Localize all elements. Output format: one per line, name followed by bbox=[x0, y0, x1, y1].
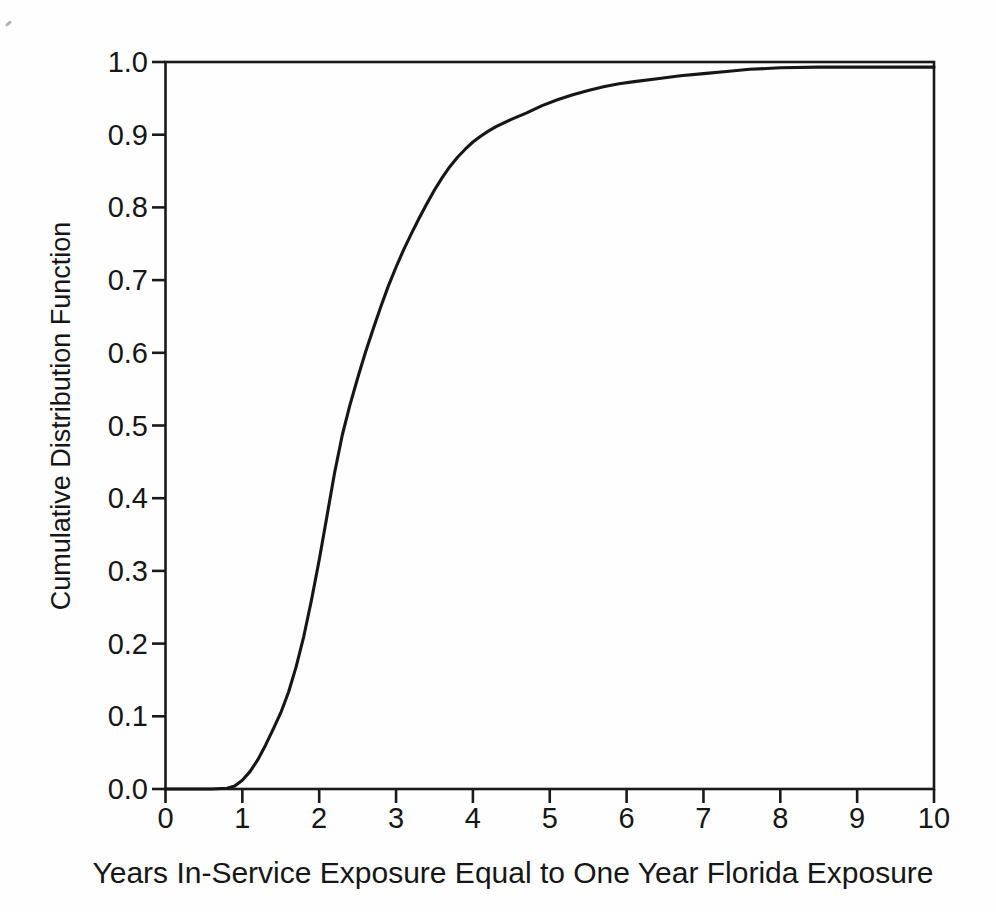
x-axis-title: Years In-Service Exposure Equal to One Y… bbox=[30, 856, 996, 890]
x-tick-label: 8 bbox=[748, 801, 812, 835]
cdf-figure: 0.0 0.1 0.2 0.3 0.4 0.5 0.6 0.7 0.8 0.9 … bbox=[0, 0, 996, 912]
y-tick-label: 0.1 bbox=[86, 700, 148, 732]
x-tick-label: 1 bbox=[210, 801, 274, 835]
x-tick-label: 10 bbox=[902, 801, 966, 835]
y-tick-label: 0.7 bbox=[86, 264, 148, 296]
y-tick-label: 0.9 bbox=[86, 119, 148, 151]
x-tick-label: 7 bbox=[671, 801, 735, 835]
y-tick-label: 0.3 bbox=[86, 555, 148, 587]
cdf-curve bbox=[166, 67, 935, 789]
y-tick-label: 0.4 bbox=[86, 482, 148, 514]
y-tick-label: 0.8 bbox=[86, 191, 148, 223]
x-tick-label: 2 bbox=[287, 801, 351, 835]
plot-area bbox=[0, 0, 996, 912]
plot-frame bbox=[166, 62, 935, 789]
x-tick-label: 9 bbox=[825, 801, 889, 835]
x-tick-label: 3 bbox=[364, 801, 428, 835]
x-tick-label: 4 bbox=[441, 801, 505, 835]
y-tick-label: 0.6 bbox=[86, 337, 148, 369]
y-tick-label: 0.5 bbox=[86, 410, 148, 442]
y-tick-label: 0.2 bbox=[86, 628, 148, 660]
x-tick-label: 0 bbox=[134, 801, 198, 835]
x-tick-label: 6 bbox=[595, 801, 659, 835]
axis-ticks bbox=[152, 62, 934, 803]
x-tick-label: 5 bbox=[518, 801, 582, 835]
y-axis-title: Cumulative Distribution Function bbox=[46, 222, 77, 611]
y-tick-label: 1.0 bbox=[86, 46, 148, 78]
